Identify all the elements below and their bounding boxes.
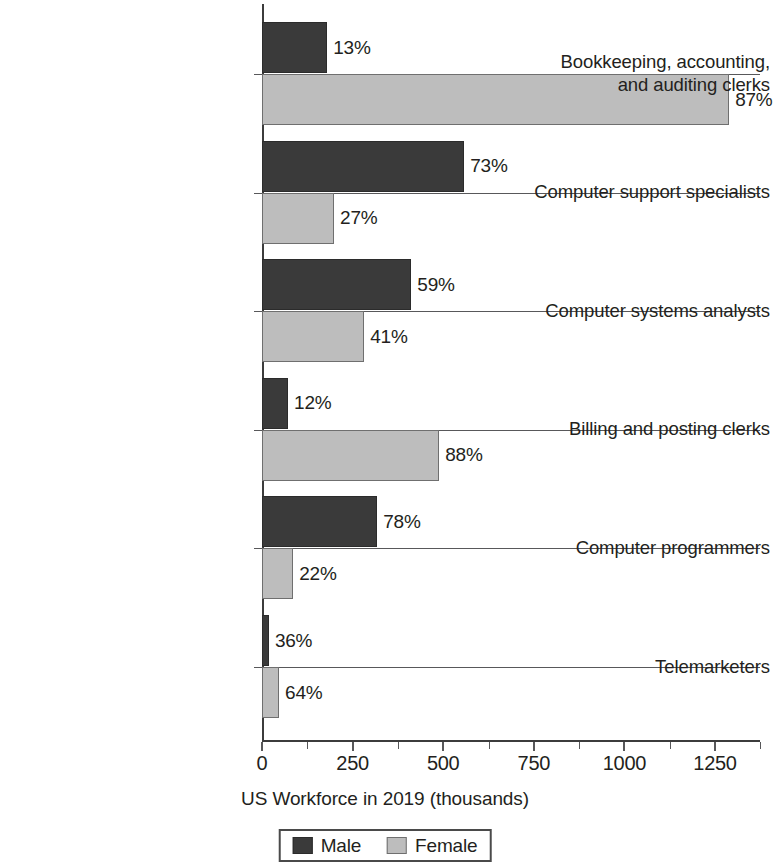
bar-male [262, 141, 464, 192]
y-axis-tick [254, 548, 262, 549]
x-axis-tick-label: 1250 [693, 752, 736, 774]
x-axis-minor-tick [579, 742, 580, 749]
bar-male [262, 259, 411, 310]
chart-legend: Male Female [279, 829, 492, 862]
plot-area: 13%87%73%27%59%41%12%88%78%22%36%64% Boo… [0, 0, 770, 742]
legend-label-male: Male [321, 836, 361, 855]
male-swatch-icon [293, 837, 313, 854]
category-label: Computer support specialists [518, 180, 770, 203]
bar-value-label: 41% [370, 327, 407, 346]
x-axis-major-tick [261, 742, 263, 751]
x-axis-major-tick [533, 742, 535, 751]
bar-value-label: 88% [445, 445, 482, 464]
bar-female [262, 311, 364, 362]
x-axis-tick-label: 1000 [603, 752, 646, 774]
bar-female [262, 548, 293, 599]
x-axis-tick-label: 750 [518, 752, 550, 774]
x-axis-major-tick [714, 742, 716, 751]
bar-female [262, 667, 279, 718]
category-label: Telemarketers [518, 655, 770, 678]
legend-item-female: Female [387, 836, 477, 855]
bar-value-label: 78% [383, 512, 420, 531]
y-axis-tick [254, 430, 262, 431]
category-label: Bookkeeping, accounting, and auditing cl… [518, 50, 770, 96]
bar-female [262, 430, 439, 481]
bar-value-label: 36% [275, 631, 312, 650]
bar-value-label: 73% [470, 156, 507, 175]
category-label: Computer programmers [518, 536, 770, 559]
bar-female [262, 193, 334, 244]
bar-value-label: 22% [299, 564, 336, 583]
legend-label-female: Female [415, 836, 477, 855]
category-label: Billing and posting clerks [518, 417, 770, 440]
x-axis-major-tick [623, 742, 625, 751]
x-axis-minor-tick [760, 742, 761, 749]
bar-male [262, 22, 327, 73]
bar-value-label: 59% [417, 275, 454, 294]
y-axis-tick [254, 193, 262, 194]
x-axis-tick-label: 250 [336, 752, 368, 774]
bar-value-label: 12% [294, 393, 331, 412]
x-axis-line [262, 740, 760, 742]
bar-male [262, 496, 377, 547]
x-axis-minor-tick [307, 742, 308, 749]
bar-value-label: 13% [333, 38, 370, 57]
x-axis-tick-label: 500 [427, 752, 459, 774]
bar-male [262, 378, 288, 429]
legend-item-male: Male [293, 836, 361, 855]
category-label: Computer systems analysts [518, 299, 770, 322]
x-axis-major-tick [352, 742, 354, 751]
y-axis-tick [254, 311, 262, 312]
x-axis-title: US Workforce in 2019 (thousands) [0, 788, 770, 810]
x-axis-minor-tick [670, 742, 671, 749]
y-axis-tick [254, 667, 262, 668]
x-axis-minor-tick [489, 742, 490, 749]
bar-male [262, 615, 269, 666]
bar-value-label: 27% [340, 208, 377, 227]
female-swatch-icon [387, 837, 407, 854]
bar-value-label: 64% [285, 683, 322, 702]
x-axis-tick-label: 0 [257, 752, 268, 774]
y-axis-tick [254, 74, 262, 75]
x-axis-minor-tick [398, 742, 399, 749]
x-axis-major-tick [442, 742, 444, 751]
